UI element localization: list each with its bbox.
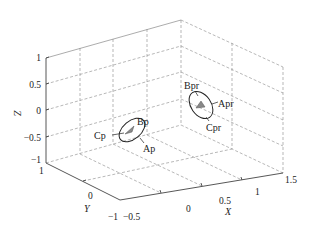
svg-text:−0.5: −0.5 [123,212,140,222]
label-bp: Bp [137,116,149,127]
3d-plot: 1 0.5 0 −0.5 −1 Z 1 0 −1 Y −0.5 0 0.5 1 … [0,0,310,232]
object-p: Bp Cp Ap [94,113,155,154]
svg-text:1: 1 [36,53,41,63]
label-cpr: Cpr [206,122,222,133]
x-tick-labels: −0.5 0 0.5 1 1.5 [123,175,297,222]
svg-text:0.5: 0.5 [219,196,231,206]
label-bpr: Bpr [184,80,200,91]
object-pr: Bpr Apr Cpr [184,80,234,133]
label-cp: Cp [94,130,106,141]
svg-text:1: 1 [255,187,260,197]
axes [46,20,283,200]
triangle-p [125,126,134,134]
label-apr: Apr [218,98,234,109]
z-tick-labels: 1 0.5 0 −0.5 −1 [24,53,41,165]
triangle-pr [196,101,205,108]
svg-text:1.5: 1.5 [285,175,297,185]
y-axis-label: Y [84,203,91,214]
svg-text:−0.5: −0.5 [24,133,41,143]
label-ap: Ap [143,143,155,154]
svg-text:−1: −1 [31,155,41,165]
y-tick-labels: 1 0 −1 [39,166,118,222]
svg-text:0: 0 [36,106,41,116]
grid-lines [46,20,283,193]
svg-text:−1: −1 [108,212,118,222]
x-axis-label: X [224,206,232,217]
svg-text:1: 1 [39,166,44,176]
svg-text:0: 0 [186,204,191,214]
svg-text:0.5: 0.5 [29,80,41,90]
z-axis-label: Z [12,110,23,116]
svg-text:0: 0 [88,191,93,201]
